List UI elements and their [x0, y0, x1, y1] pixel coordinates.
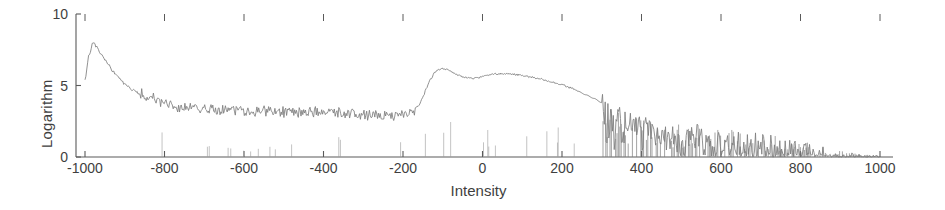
x-tick-label: -600: [209, 161, 279, 175]
x-tick-label: 800: [766, 161, 836, 175]
spectrum-trace: [85, 43, 880, 157]
x-tick-label: -800: [130, 161, 200, 175]
x-tick-label: 0: [448, 161, 518, 175]
x-tick-label: -200: [368, 161, 438, 175]
x-tick-label: -1000: [50, 161, 120, 175]
chart-figure: Logarithm Intensity 0510-1000-800-600-40…: [0, 0, 945, 210]
y-tick-label: 5: [38, 79, 68, 93]
x-tick-label: 200: [527, 161, 597, 175]
x-tick-label: -400: [289, 161, 359, 175]
y-tick-label: 10: [38, 7, 68, 21]
x-tick-label: 400: [607, 161, 677, 175]
x-tick-label: 1000: [845, 161, 915, 175]
plot-canvas: [0, 0, 945, 210]
x-tick-label: 600: [686, 161, 756, 175]
